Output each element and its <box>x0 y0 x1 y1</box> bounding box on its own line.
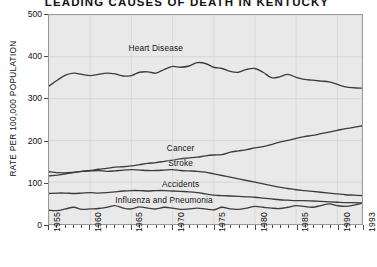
y-axis-title: RATE PER 100,000 POPULATION <box>9 24 18 194</box>
x-tick-mark-minor <box>147 225 148 228</box>
x-tick-mark-minor <box>272 225 273 228</box>
x-tick-mark-major <box>297 225 298 230</box>
y-tick-label: 0 <box>0 221 42 230</box>
x-tick-mark-major <box>172 225 173 230</box>
y-tick-mark <box>44 14 48 15</box>
y-tick-mark <box>44 183 48 184</box>
x-tick-mark-major <box>131 225 132 230</box>
series-lines <box>49 15 362 224</box>
x-tick-label: 1955 <box>52 212 62 232</box>
x-tick-mark-major <box>255 225 256 230</box>
x-tick-mark-minor <box>65 225 66 228</box>
series-label: Stroke <box>168 158 193 168</box>
series-line <box>49 126 362 176</box>
x-tick-label: 1965 <box>134 212 144 232</box>
x-tick-mark-minor <box>106 225 107 228</box>
x-tick-mark-minor <box>322 225 323 228</box>
x-tick-mark-minor <box>330 225 331 228</box>
x-tick-mark-major <box>214 225 215 230</box>
x-tick-label: 1990 <box>342 212 352 232</box>
x-tick-mark-minor <box>288 225 289 228</box>
x-tick-mark-minor <box>197 225 198 228</box>
plot-area <box>48 14 363 225</box>
x-tick-mark-major <box>48 225 49 230</box>
x-tick-mark-minor <box>189 225 190 228</box>
x-tick-mark-minor <box>355 225 356 228</box>
x-tick-mark-minor <box>114 225 115 228</box>
chart-title: LEADING CAUSES OF DEATH IN KENTUCKY <box>0 0 374 8</box>
x-tick-mark-major <box>363 225 364 230</box>
y-tick-mark <box>44 98 48 99</box>
x-tick-label: 1960 <box>93 212 103 232</box>
x-tick-mark-minor <box>123 225 124 228</box>
x-tick-label: 1993 <box>367 212 377 232</box>
y-tick-label: 400 <box>0 52 42 61</box>
x-tick-mark-minor <box>164 225 165 228</box>
x-tick-mark-minor <box>239 225 240 228</box>
x-tick-mark-minor <box>280 225 281 228</box>
series-label: Influenza and Pneumonia <box>115 195 213 205</box>
series-label: Accidents <box>162 179 199 189</box>
x-tick-mark-minor <box>206 225 207 228</box>
x-tick-mark-minor <box>73 225 74 228</box>
x-tick-mark-minor <box>313 225 314 228</box>
x-tick-label: 1970 <box>176 212 186 232</box>
x-tick-mark-minor <box>81 225 82 228</box>
x-tick-mark-minor <box>230 225 231 228</box>
y-tick-label: 300 <box>0 94 42 103</box>
series-line <box>49 63 362 89</box>
x-tick-mark-minor <box>156 225 157 228</box>
y-tick-label: 200 <box>0 137 42 146</box>
series-label: Cancer <box>167 143 195 153</box>
series-label: Heart Disease <box>128 43 183 53</box>
y-tick-mark <box>44 56 48 57</box>
y-tick-label: 500 <box>0 10 42 19</box>
x-tick-label: 1980 <box>259 212 269 232</box>
y-tick-mark <box>44 141 48 142</box>
series-line <box>49 170 362 196</box>
x-tick-mark-minor <box>247 225 248 228</box>
x-tick-mark-major <box>338 225 339 230</box>
x-tick-label: 1975 <box>217 212 227 232</box>
y-tick-label: 100 <box>0 179 42 188</box>
x-tick-mark-major <box>89 225 90 230</box>
x-tick-label: 1985 <box>300 212 310 232</box>
